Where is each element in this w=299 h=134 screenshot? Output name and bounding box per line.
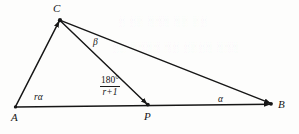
vertex-label-P: P [144,111,151,122]
angle-label-fraction-at-P: 180° r+1 [100,76,120,98]
vertex-dot-B [269,102,273,106]
vertex-label-B: B [278,99,285,110]
angle-label-beta-at-C: β [93,38,98,48]
angle-label-A: rα [34,93,43,103]
segment-CB [60,20,270,103]
vertex-dot-P [146,103,150,107]
segment-AB [16,104,271,107]
fraction-numerator: 180° [100,76,120,87]
vertex-label-C: C [53,3,60,14]
vertex-label-A: A [11,112,18,123]
angle-label-B: α [218,95,223,105]
fraction-denominator: r+1 [100,87,120,97]
vertex-dot-A [14,105,17,108]
vertex-dot-C [58,18,62,22]
